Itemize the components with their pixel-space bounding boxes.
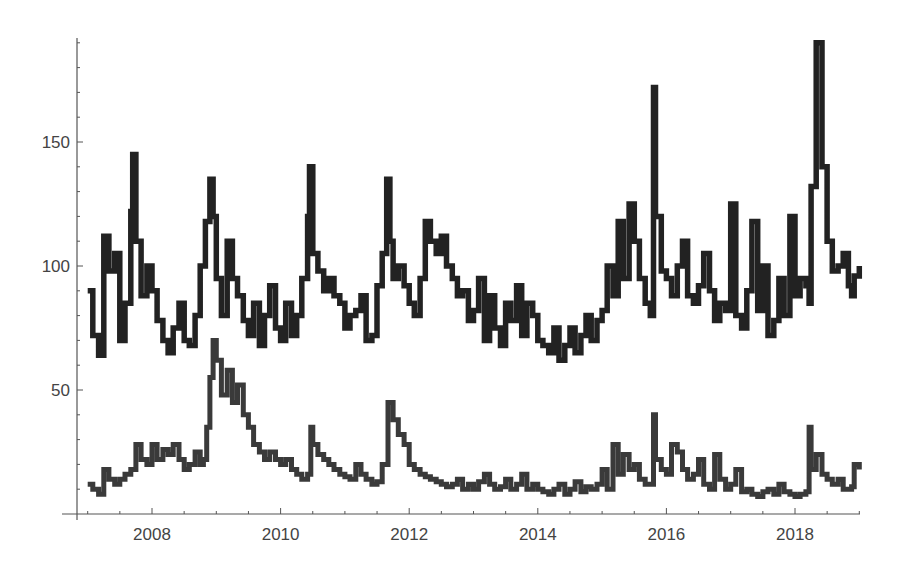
y-tick-label: 50 (51, 381, 70, 400)
x-tick-label: 2016 (647, 525, 685, 544)
x-tick-label: 2018 (776, 525, 814, 544)
time-series-chart: 50100150 200820102012201420162018 (0, 0, 897, 574)
x-tick-label: 2008 (133, 525, 171, 544)
x-tick-label: 2014 (519, 525, 557, 544)
x-tick-label: 2012 (390, 525, 428, 544)
plot-area (88, 43, 860, 497)
y-tick-label: 150 (42, 133, 70, 152)
y-tick-label: 100 (42, 257, 70, 276)
x-tick-label: 2010 (262, 525, 300, 544)
series-upper-line (88, 43, 860, 360)
series-lower-line (88, 340, 860, 496)
